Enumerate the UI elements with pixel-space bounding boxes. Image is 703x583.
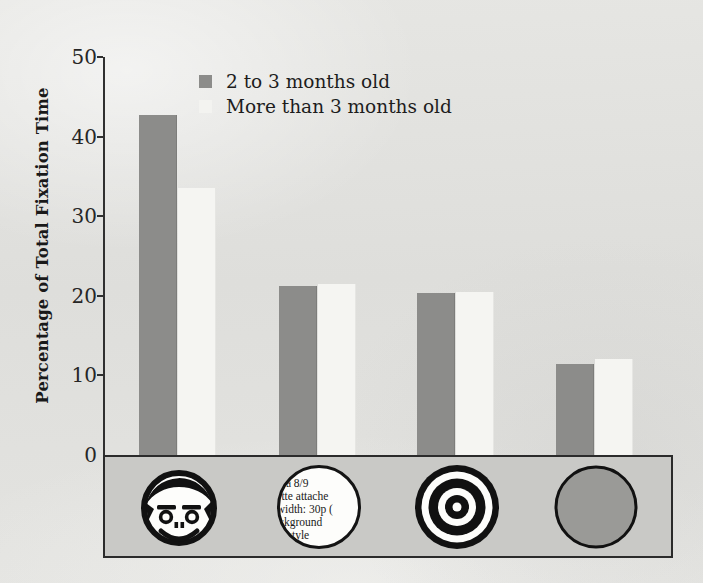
bar-face-series-a (139, 115, 177, 455)
stimulus-cell-text: mma 8/9alette attachen width: 30p (backg… (269, 457, 369, 556)
y-tick-mark (97, 295, 103, 297)
stimulus-cell-plain-disk (546, 457, 646, 556)
bar-bullseye-series-b (456, 292, 494, 455)
schematic-face-icon (135, 463, 223, 551)
bar-face-series-b (178, 188, 216, 455)
newsprint-text-circle-icon: mma 8/9alette attachen width: 30p (backg… (277, 465, 361, 549)
y-tick-mark (97, 374, 103, 376)
y-tick-mark (97, 215, 103, 217)
stimulus-cell-face (129, 457, 229, 556)
legend-swatch-icon (199, 75, 212, 88)
bar-plain-disk-series-b (595, 359, 633, 455)
plain-gray-disk-icon (553, 464, 639, 550)
bar-bullseye-series-a (417, 293, 455, 455)
legend-item: 2 to 3 months old (199, 69, 452, 94)
stimulus-cell-bullseye (407, 457, 507, 556)
bullseye-icon (414, 464, 500, 550)
stimulus-text-line: ical style (277, 529, 361, 542)
stimulus-text-line: alette attache (277, 490, 361, 503)
legend-swatch-icon (199, 100, 212, 113)
bar-group-plain-disk (556, 57, 633, 455)
y-tick-mark (97, 56, 103, 58)
legend-item: More than 3 months old (199, 94, 452, 119)
bar-text-series-a (279, 286, 317, 455)
bar-plain-disk-series-a (556, 364, 594, 455)
y-tick-mark (97, 136, 103, 138)
stimulus-text-line: background (277, 516, 361, 529)
stimulus-strip: mma 8/9alette attachen width: 30p (backg… (103, 457, 673, 558)
bar-text-series-b (318, 284, 356, 455)
legend-label: 2 to 3 months old (226, 71, 390, 92)
stimulus-text-line: mma 8/9 (277, 477, 361, 490)
stimulus-text-line: n width: 30p ( (277, 503, 361, 516)
bar-chart: Percentage of Total Fixation Time 504030… (0, 0, 703, 583)
legend-label: More than 3 months old (226, 96, 452, 117)
legend: 2 to 3 months oldMore than 3 months old (199, 69, 452, 119)
